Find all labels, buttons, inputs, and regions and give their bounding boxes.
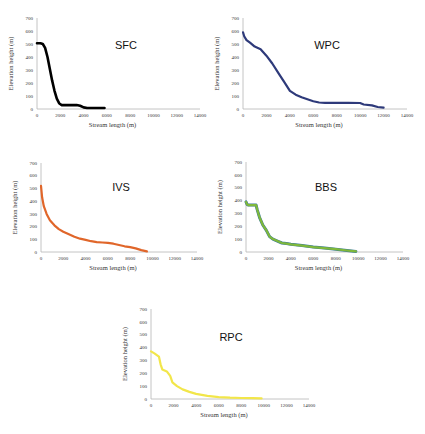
panel-title: IVS	[112, 181, 130, 193]
y-tick-label: 300	[235, 211, 243, 216]
x-tick-label: 12000	[374, 256, 387, 261]
x-tick-label: 4000	[79, 113, 90, 118]
y-tick-label: 200	[232, 81, 240, 86]
y-tick-label: 0	[237, 107, 240, 112]
y-tick-label: 200	[26, 81, 34, 86]
x-axis-label: Stream length (m)	[295, 121, 342, 129]
x-tick-label: 14000	[194, 113, 207, 118]
y-axis-label: Elevation height (m)	[7, 37, 15, 91]
y-tick-label: 500	[232, 42, 240, 47]
y-tick-label: 200	[235, 224, 243, 229]
y-tick-label: 600	[232, 29, 240, 34]
y-tick-label: 200	[140, 371, 148, 376]
x-tick-label: 4000	[191, 403, 202, 408]
y-tick-label: 400	[232, 55, 240, 60]
x-tick-label: 14000	[191, 256, 204, 261]
y-axis-label: Elevation height (m)	[213, 37, 221, 91]
panel-wpc: WPC 010020030040050060070002000400060008…	[213, 16, 414, 129]
x-tick-label: 10000	[146, 256, 159, 261]
y-tick-label: 700	[235, 160, 243, 165]
y-tick-label: 600	[235, 173, 243, 178]
x-tick-label: 6000	[103, 256, 114, 261]
x-tick-label: 8000	[331, 256, 342, 261]
x-tick-label: 8000	[125, 256, 136, 261]
y-tick-label: 300	[140, 358, 148, 363]
y-tick-label: 500	[26, 42, 34, 47]
x-tick-label: 4000	[285, 113, 296, 118]
x-tick-label: 10000	[258, 403, 271, 408]
y-tick-label: 300	[30, 212, 38, 217]
y-tick-label: 600	[140, 320, 148, 325]
x-axis-label: Stream length (m)	[295, 264, 342, 272]
x-tick-label: 10000	[354, 113, 367, 118]
x-tick-label: 12000	[280, 403, 293, 408]
x-tick-label: 10000	[147, 113, 160, 118]
x-tick-label: 6000	[308, 256, 319, 261]
y-tick-label: 300	[232, 68, 240, 73]
y-axis-label: Elevation height (m)	[121, 327, 129, 381]
x-tick-label: 2000	[169, 403, 180, 408]
series-line	[151, 351, 262, 398]
y-tick-label: 300	[26, 68, 34, 73]
y-tick-label: 0	[145, 397, 148, 402]
x-tick-label: 2000	[55, 113, 66, 118]
x-tick-label: 6000	[102, 113, 113, 118]
y-tick-label: 100	[26, 94, 34, 99]
y-tick-label: 600	[30, 173, 38, 178]
x-tick-label: 12000	[168, 256, 181, 261]
x-tick-label: 14000	[303, 403, 316, 408]
x-tick-label: 2000	[261, 113, 272, 118]
y-tick-label: 700	[232, 16, 240, 21]
x-tick-label: 10000	[352, 256, 365, 261]
panel-title: BBS	[315, 181, 337, 193]
y-tick-label: 0	[240, 250, 243, 255]
panel-title: RPC	[219, 331, 242, 343]
y-tick-label: 400	[140, 345, 148, 350]
y-tick-label: 500	[30, 186, 38, 191]
x-axis-label: Stream length (m)	[89, 121, 136, 129]
x-tick-label: 8000	[332, 113, 343, 118]
x-tick-label: 8000	[236, 403, 247, 408]
x-tick-label: 4000	[286, 256, 297, 261]
y-tick-label: 0	[31, 107, 34, 112]
y-tick-label: 0	[35, 250, 38, 255]
y-tick-label: 500	[235, 185, 243, 190]
figure-canvas: SFC 010020030040050060070002000400060008…	[0, 0, 425, 434]
y-tick-label: 100	[235, 237, 243, 242]
panel-bbs: BBS 010020030040050060070002000400060008…	[216, 160, 410, 272]
x-tick-label: 0	[40, 256, 43, 261]
y-tick-label: 200	[30, 224, 38, 229]
x-tick-label: 8000	[125, 113, 136, 118]
series-line	[41, 186, 147, 252]
x-tick-label: 6000	[214, 403, 225, 408]
x-tick-label: 6000	[308, 113, 319, 118]
y-tick-label: 500	[140, 332, 148, 337]
x-axis-label: Stream length (m)	[200, 411, 247, 419]
x-tick-label: 0	[150, 403, 153, 408]
x-tick-label: 14000	[397, 256, 410, 261]
x-tick-label: 2000	[263, 256, 274, 261]
panel-rpc: RPC 010020030040050060070002000400060008…	[121, 307, 316, 419]
y-tick-label: 700	[30, 161, 38, 166]
series-line	[37, 43, 105, 108]
x-tick-label: 2000	[58, 256, 69, 261]
x-tick-label: 0	[245, 256, 248, 261]
x-tick-label: 0	[36, 113, 39, 118]
x-tick-label: 0	[242, 113, 245, 118]
panel-title: WPC	[314, 39, 340, 51]
y-tick-label: 100	[140, 384, 148, 389]
y-tick-label: 600	[26, 29, 34, 34]
y-tick-label: 400	[30, 199, 38, 204]
x-axis-label: Stream length (m)	[89, 264, 136, 272]
y-tick-label: 700	[26, 16, 34, 21]
x-tick-label: 14000	[401, 113, 414, 118]
y-tick-label: 100	[232, 94, 240, 99]
x-tick-label: 12000	[170, 113, 183, 118]
y-axis-label: Elevation height (m)	[216, 180, 224, 234]
x-tick-label: 4000	[81, 256, 92, 261]
y-axis-label: Elevation height (m)	[11, 181, 19, 235]
panel-title: SFC	[115, 39, 137, 51]
y-tick-label: 700	[140, 307, 148, 312]
panel-ivs: IVS 010020030040050060070002000400060008…	[11, 161, 204, 272]
y-tick-label: 100	[30, 237, 38, 242]
